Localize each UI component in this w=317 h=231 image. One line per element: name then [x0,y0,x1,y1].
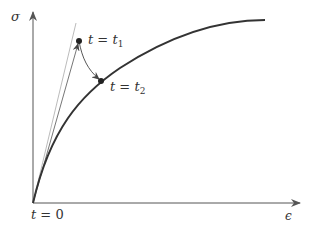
stress-strain-diagram: σ ϵ t = t1 t = t2 t = 0 [0,0,317,231]
x-axis-label: ϵ [285,209,292,223]
point-t1 [76,38,82,44]
point-t2 [98,78,104,84]
label-t2: t = t2 [110,79,145,96]
label-t1: t = t1 [88,32,123,49]
label-origin: t = 0 [31,207,64,222]
stress-strain-curve [33,20,265,203]
y-axis-label: σ [11,9,21,24]
